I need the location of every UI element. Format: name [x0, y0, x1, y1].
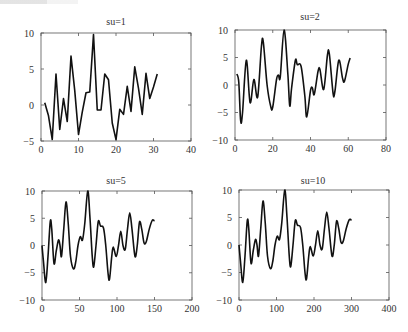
x-tick-label: 100 — [110, 303, 125, 314]
y-tick-label: −5 — [217, 107, 228, 118]
y-tick-label: 10 — [25, 186, 35, 197]
y-tick-label: 0 — [29, 100, 34, 111]
x-tick-label: 0 — [40, 303, 45, 314]
x-tick-label: 60 — [343, 143, 353, 154]
x-tick-label: 0 — [237, 303, 242, 314]
subplot-su-2: su=2020406080−10−50510 — [212, 11, 391, 154]
axes-frame — [41, 33, 191, 141]
x-tick-label: 200 — [185, 303, 200, 314]
data-line — [45, 34, 158, 139]
y-tick-label: 10 — [222, 185, 232, 196]
x-tick-label: 10 — [74, 144, 84, 155]
y-tick-label: −10 — [216, 295, 232, 306]
y-tick-label: 0 — [223, 80, 228, 91]
x-tick-label: 200 — [307, 303, 322, 314]
subplot-su-1: su=1010203040−50510 — [23, 16, 196, 155]
x-tick-label: 0 — [233, 143, 238, 154]
y-tick-label: −5 — [221, 267, 232, 278]
y-tick-label: −5 — [24, 267, 35, 278]
x-tick-label: 50 — [75, 303, 85, 314]
x-tick-label: 0 — [39, 144, 44, 155]
y-tick-label: −5 — [23, 136, 34, 147]
axes-frame — [235, 30, 386, 140]
x-tick-label: 400 — [382, 303, 397, 314]
subplot-su-5: su=5050100150200−10−50510 — [19, 175, 199, 314]
subplot-title: su=10 — [301, 175, 326, 186]
x-tick-label: 40 — [306, 143, 316, 154]
y-tick-label: 5 — [223, 52, 228, 63]
y-tick-label: 10 — [24, 28, 34, 39]
y-tick-label: 0 — [30, 240, 35, 251]
subplot-su-10: su=100100200300400−10−50510 — [216, 175, 396, 314]
y-tick-label: −10 — [212, 135, 228, 146]
data-line — [42, 191, 155, 283]
y-tick-label: 5 — [29, 64, 34, 75]
x-tick-label: 30 — [149, 144, 159, 155]
data-line — [237, 30, 350, 123]
y-tick-label: 5 — [30, 213, 35, 224]
subplot-title: su=1 — [106, 16, 126, 27]
y-tick-label: 5 — [227, 212, 232, 223]
subplot-grid: su=1010203040−50510 su=2020406080−10−505… — [0, 0, 408, 332]
y-tick-label: −10 — [19, 295, 35, 306]
axes-frame — [42, 191, 192, 300]
x-tick-label: 150 — [147, 303, 162, 314]
x-tick-label: 20 — [111, 144, 121, 155]
subplot-title: su=2 — [300, 11, 320, 22]
y-tick-label: 0 — [227, 240, 232, 251]
data-line — [239, 190, 352, 282]
x-tick-label: 300 — [344, 303, 359, 314]
subplot-title: su=5 — [106, 175, 126, 186]
x-tick-label: 40 — [186, 144, 196, 155]
x-tick-label: 80 — [381, 143, 391, 154]
x-tick-label: 20 — [268, 143, 278, 154]
axes-frame — [239, 190, 389, 300]
x-tick-label: 100 — [269, 303, 284, 314]
y-tick-label: 10 — [218, 25, 228, 36]
